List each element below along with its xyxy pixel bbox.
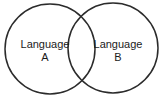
venn-label-language-b-line2: B <box>114 51 121 63</box>
venn-diagram-figure: Language A Language B <box>0 0 165 99</box>
venn-label-language-b-line1: Language <box>94 38 143 50</box>
venn-diagram-canvas: Language A Language B <box>0 0 165 99</box>
venn-label-language-a-line2: A <box>41 51 49 63</box>
venn-label-language-a-line1: Language <box>21 38 70 50</box>
